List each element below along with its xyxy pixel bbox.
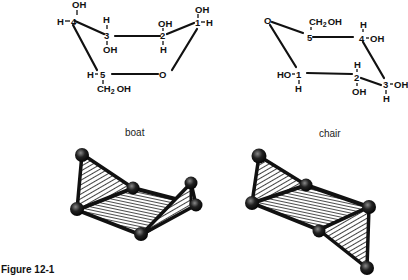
chair-structure-diagram: O CH2OH 5 H 4 OH HO 1 H H 2 OH 3 OH H [264,15,408,104]
c3-number: 3 [104,30,109,41]
bond-c1-c2 [307,73,352,74]
atom [245,196,259,210]
c1-h-label: H [206,17,213,28]
c3-oh-label: OH [103,44,117,55]
bond-c2-c3 [361,78,381,85]
c3-oh-label: OH [394,79,408,90]
chair-3d-model [245,149,376,276]
bond-o-c1 [270,25,296,67]
c1-ho-label: HO [277,69,291,80]
bond-c4-c3 [75,21,104,34]
atom [75,148,89,162]
bond-c1-o [172,29,197,70]
c3-number: 3 [383,79,388,90]
c1-oh-label: OH [195,4,209,15]
c1-number: 1 [296,69,302,80]
c5-ch2oh-label: CH2OH [309,16,342,28]
chair-label: chair [319,128,341,139]
c5-number: 5 [307,32,313,43]
atom [362,200,376,214]
atom [134,227,148,241]
c1-h-label: H [295,83,302,94]
c5-h-label: H [87,69,94,80]
figure-canvas: OH H 4 H 3 OH OH 2 H OH 1 H H 5 CH2OH O [0,0,408,280]
ring-oxygen-label: O [264,15,271,26]
atom [185,177,198,190]
c1-number: 1 [195,17,201,28]
c4-h-label: H [360,19,367,30]
c4-number: 4 [359,33,365,44]
c5-number: 5 [100,69,106,80]
c5-ch2oh-label: CH2OH [97,83,131,95]
oh-text: OH [117,83,131,94]
bond-c4-c3 [363,42,384,78]
c4-oh-label: OH [370,33,384,44]
bond-c4-c5 [73,25,97,70]
boat-structure-diagram: OH H 4 H 3 OH OH 2 H OH 1 H H 5 CH2OH O [57,0,213,95]
ch-text: CH [309,16,323,27]
c2-number: 2 [160,30,165,41]
c4-h-label: H [57,16,64,27]
ch-text: CH [97,83,111,94]
ring-oxygen-label: O [159,69,166,80]
atom [70,202,84,216]
atom [313,225,326,238]
atom [252,149,267,164]
boat-3d-model [70,148,203,241]
bond-o-c5 [272,22,303,33]
atom [190,199,203,212]
atom [300,179,313,192]
c4-oh-label: OH [72,0,86,10]
c3-h-label: H [103,14,110,25]
oh-text: OH [328,16,342,27]
c2-h-label: H [354,59,361,70]
c2-h-label: H [160,44,167,55]
c3-h-label: H [383,93,390,104]
subscript-2: 2 [323,21,327,28]
c4-number: 4 [71,16,77,27]
c2-oh-label: OH [158,18,172,29]
boat-label: boat [125,127,145,138]
atom [360,261,374,275]
figure-caption: Figure 12-1 [1,264,55,275]
subscript-2: 2 [111,88,115,95]
c2-number: 2 [354,72,359,83]
c2-oh-label: OH [352,86,366,97]
atom [127,182,140,195]
